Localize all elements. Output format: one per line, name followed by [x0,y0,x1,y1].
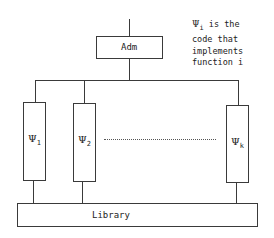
drop-line-1 [35,80,36,102]
annotation-note: Ψi is the code that implements function … [192,19,243,69]
annotation-line-4: function i [192,57,243,69]
module-label-k: Ψk [231,136,244,150]
module-label-1: Ψ1 [28,133,41,147]
library-box: Library [17,203,258,227]
module-label-2: Ψ2 [78,134,91,148]
distribution-bus [35,80,239,81]
annotation-line-3: implements [192,46,243,58]
adm-input-line [129,19,130,36]
lib-line-k [236,183,237,204]
annotation-line-2: code that [192,34,243,46]
ellipsis-dots [104,139,216,140]
module-box-k: Ψk [226,105,249,183]
drop-line-k [238,80,239,105]
annotation-line-1: Ψi is the [192,19,243,34]
adm-box: Adm [96,36,163,59]
library-label: Library [92,210,130,220]
module-box-2: Ψ2 [73,103,96,182]
drop-line-2 [84,80,85,103]
adm-output-line [129,59,130,80]
module-box-1: Ψ1 [23,102,46,181]
lib-line-2 [82,182,83,203]
lib-line-1 [33,181,34,203]
adm-label: Adm [121,42,137,52]
